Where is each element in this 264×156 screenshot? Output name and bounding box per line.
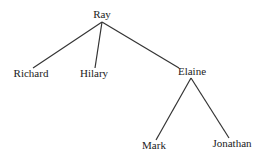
edge-elaine-jonathan bbox=[191, 78, 229, 138]
edge-ray-hilary bbox=[95, 22, 102, 68]
node-jonathan: Jonathan bbox=[212, 137, 251, 149]
node-hilary: Hilary bbox=[80, 67, 108, 79]
node-elaine: Elaine bbox=[178, 65, 206, 77]
edge-ray-richard bbox=[33, 22, 102, 68]
node-mark: Mark bbox=[142, 139, 166, 151]
node-ray: Ray bbox=[93, 8, 111, 20]
node-richard: Richard bbox=[14, 67, 49, 79]
edge-elaine-mark bbox=[156, 78, 191, 140]
family-tree-diagram: Ray Richard Hilary Elaine Mark Jonathan bbox=[0, 0, 264, 156]
edge-ray-elaine bbox=[102, 22, 179, 68]
